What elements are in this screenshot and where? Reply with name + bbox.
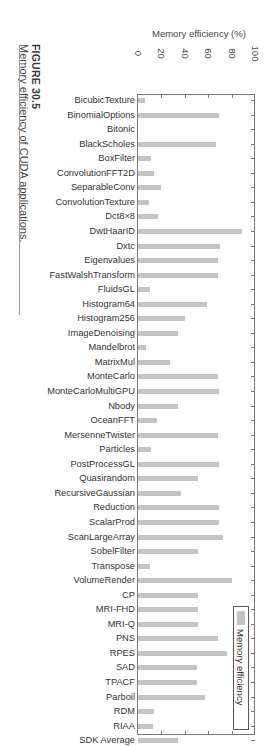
tick-mark (185, 731, 186, 735)
tick-mark (251, 347, 255, 348)
bar (138, 505, 219, 510)
category-label: RecursiveGaussian (54, 488, 135, 499)
bar (138, 142, 216, 147)
category-label: CP (122, 590, 135, 601)
bar (138, 360, 170, 365)
bar (138, 302, 207, 307)
category-label: Nbody (108, 401, 135, 412)
bar (138, 636, 218, 641)
bar (138, 331, 178, 336)
category-label: MRI-FHD (96, 604, 135, 615)
category-label: RIAA (113, 721, 135, 732)
tick-mark (251, 537, 255, 538)
bar (138, 389, 219, 394)
tick-mark (251, 580, 255, 581)
bar (138, 418, 157, 423)
tick-mark (251, 275, 255, 276)
category-label: TPACF (105, 677, 135, 688)
tick-label: 80 (226, 44, 237, 64)
tick-mark (251, 478, 255, 479)
tick-mark (251, 362, 255, 363)
tick-mark (251, 682, 255, 683)
tick-mark (251, 740, 255, 741)
category-label: VolumeRender (73, 575, 135, 586)
category-label: Parboil (106, 692, 135, 703)
legend-swatch (237, 611, 245, 625)
tick-mark (251, 333, 255, 334)
bar (138, 316, 185, 321)
tick-mark (232, 94, 233, 98)
category-label: Histogram256 (77, 313, 135, 324)
bar (138, 738, 178, 743)
tick-mark (251, 231, 255, 232)
tick-mark (251, 595, 255, 596)
bar (138, 171, 154, 176)
tick-mark (251, 464, 255, 465)
category-label: SeparableConv (71, 182, 135, 193)
tick-mark (251, 100, 255, 101)
tick-mark (251, 318, 255, 319)
category-label: MRI-Q (108, 619, 135, 630)
tick-mark (251, 216, 255, 217)
figure-caption: FIGURE 30.5 Memory efficiency of CUDA ap… (4, 0, 44, 741)
caption-rule (19, 45, 20, 315)
tick-mark (251, 304, 255, 305)
category-label: FluidsGL (98, 284, 135, 295)
bar (138, 535, 223, 540)
bar (138, 258, 218, 263)
bar (138, 564, 150, 569)
tick-mark (251, 158, 255, 159)
tick-mark (251, 435, 255, 436)
category-label: Transpose (91, 561, 135, 572)
axis-label: Memory efficiency (%) (152, 28, 246, 39)
category-label: Histogram64 (82, 299, 135, 310)
bar (138, 185, 161, 190)
tick-mark (208, 731, 209, 735)
category-label: Eigenvalues (84, 255, 135, 266)
tick-mark (251, 551, 255, 552)
category-label: RPES (110, 648, 135, 659)
tick-mark (251, 449, 255, 450)
tick-mark (251, 391, 255, 392)
legend: Memory efficiency (233, 606, 249, 730)
bar (138, 433, 218, 438)
tick-mark (185, 94, 186, 98)
tick-mark (251, 260, 255, 261)
bar (138, 491, 181, 496)
tick-mark (251, 522, 255, 523)
category-label: Mandelbrot (88, 342, 135, 353)
tick-mark (251, 507, 255, 508)
bar (138, 345, 146, 350)
category-label: Bitonic (107, 124, 135, 135)
tick-mark (251, 711, 255, 712)
bar (138, 229, 242, 234)
bar (138, 462, 219, 467)
category-label: BoxFilter (98, 153, 135, 164)
category-label: Particles (99, 444, 135, 455)
category-label: Quasirandom (79, 473, 135, 484)
bar (138, 404, 178, 409)
tick-mark (251, 202, 255, 203)
bar (138, 476, 198, 481)
tick-mark (251, 246, 255, 247)
tick-mark (251, 726, 255, 727)
category-label: RDM (114, 706, 135, 717)
tick-label: 0 (133, 44, 144, 64)
tick-mark (251, 420, 255, 421)
bar (138, 447, 151, 452)
bar (138, 214, 158, 219)
tick-mark (251, 129, 255, 130)
tick-mark (161, 94, 162, 98)
bar (138, 607, 198, 612)
tick-label: 40 (179, 44, 190, 64)
category-label: BlackScholes (79, 139, 135, 150)
category-label: MonteCarloMultiGPU (47, 386, 135, 397)
bar (138, 156, 151, 161)
category-label: PNS (116, 633, 135, 644)
bar (138, 200, 149, 205)
tick-mark (251, 173, 255, 174)
bar (138, 709, 154, 714)
category-label: OceanFFT (91, 415, 135, 426)
category-label: BicubicTexture (75, 95, 135, 106)
tick-mark (251, 566, 255, 567)
